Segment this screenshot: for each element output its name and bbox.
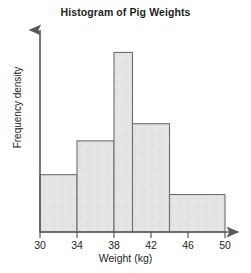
bar-44-50 (170, 195, 226, 232)
x-tick-label-38: 38 (102, 239, 126, 251)
x-ticks-group (40, 232, 225, 238)
x-tick-label-30: 30 (28, 239, 52, 251)
x-tick-label-34: 34 (65, 239, 89, 251)
x-tick-label-42: 42 (139, 239, 163, 251)
x-axis-label: Weight (kg) (0, 252, 251, 264)
x-tick-label-50: 50 (213, 239, 237, 251)
y-axis-label: Frequency density (12, 48, 23, 168)
bar-30-34 (40, 175, 77, 232)
bars-group (40, 52, 225, 232)
x-tick-label-46: 46 (176, 239, 200, 251)
histogram-chart: Histogram of Pig Weights (0, 0, 251, 273)
plot-area (0, 0, 251, 273)
bar-38-40 (114, 52, 133, 232)
bar-40-44 (133, 124, 170, 232)
bar-34-38 (77, 141, 114, 232)
